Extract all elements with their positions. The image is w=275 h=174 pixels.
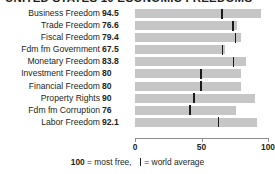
world-average-tick	[218, 117, 220, 127]
world-average-tick	[189, 105, 191, 115]
bar-row-label: Labor Freedom	[0, 117, 100, 128]
bar-row-value: 80	[102, 81, 130, 92]
bar-row-value: 76	[102, 105, 130, 116]
bar-row-value: 94.5	[102, 8, 130, 19]
bar-track	[135, 82, 268, 91]
value-bar	[135, 118, 257, 127]
axis-tick-label: 50	[187, 142, 217, 152]
value-bar	[135, 33, 241, 42]
value-bar	[135, 106, 236, 115]
bar-row: Property Rights90	[0, 93, 275, 105]
bar-row: Fiscal Freedom79.4	[0, 32, 275, 44]
bar-row-label: Fdm fm Government	[0, 44, 100, 55]
world-average-tick	[235, 33, 237, 43]
economic-freedoms-chart: UNITED STATES 10 ECONOMIC FREEDOMS Busin…	[0, 0, 275, 174]
bar-row-label: Investment Freedom	[0, 68, 100, 79]
bar-row: Trade Freedom76.6	[0, 20, 275, 32]
bar-row-value: 76.6	[102, 20, 130, 31]
value-bar	[135, 57, 246, 66]
bar-row-label: Monetary Freedom	[0, 56, 100, 67]
bar-row-value: 67.5	[102, 44, 130, 55]
axis-tick-label: 100	[253, 142, 275, 152]
bar-row-label: Fdm fm Corruption	[0, 105, 100, 116]
value-bar	[135, 82, 241, 91]
value-bar	[135, 21, 237, 30]
world-average-tick	[233, 57, 235, 67]
axis-tick-mark	[202, 138, 203, 142]
world-average-marker-icon	[140, 158, 142, 166]
axis-tick-mark	[268, 138, 269, 142]
bar-track	[135, 94, 268, 103]
value-bar	[135, 69, 241, 78]
legend-max-value: 100	[71, 157, 85, 167]
bar-row-value: 90	[102, 93, 130, 104]
bar-row-value: 92.1	[102, 117, 130, 128]
world-average-tick	[221, 9, 223, 19]
bar-row-value: 83.8	[102, 56, 130, 67]
bar-row: Fdm fm Corruption76	[0, 105, 275, 117]
value-bar	[135, 9, 261, 18]
bar-row: Financial Freedom80	[0, 81, 275, 93]
bar-row: Investment Freedom80	[0, 68, 275, 80]
bar-row: Monetary Freedom83.8	[0, 56, 275, 68]
bar-track	[135, 9, 268, 18]
bar-track	[135, 21, 268, 30]
bar-row: Fdm fm Government67.5	[0, 44, 275, 56]
legend-average-text: = world average	[144, 157, 204, 167]
bar-track	[135, 118, 268, 127]
page-title: UNITED STATES 10 ECONOMIC FREEDOMS	[5, 0, 252, 4]
world-average-tick	[222, 45, 224, 55]
chart-title-clipped: UNITED STATES 10 ECONOMIC FREEDOMS	[0, 0, 275, 5]
legend-max-text: = most free,	[87, 157, 131, 167]
bar-track	[135, 45, 268, 54]
world-average-tick	[200, 81, 202, 91]
bar-track	[135, 69, 268, 78]
world-average-tick	[232, 21, 234, 31]
chart-legend: 100 = most free,= world average	[0, 156, 275, 168]
axis-tick-label: 0	[120, 142, 150, 152]
bar-row-label: Financial Freedom	[0, 81, 100, 92]
bar-row: Labor Freedom92.1	[0, 117, 275, 129]
bar-row-value: 80	[102, 68, 130, 79]
bar-rows: Business Freedom94.5Trade Freedom76.6Fis…	[0, 8, 275, 129]
world-average-tick	[193, 93, 195, 103]
bar-track	[135, 106, 268, 115]
bar-row-label: Property Rights	[0, 93, 100, 104]
axis-tick-mark	[135, 138, 136, 142]
bar-row-label: Business Freedom	[0, 8, 100, 19]
bar-track	[135, 57, 268, 66]
bar-row-label: Trade Freedom	[0, 20, 100, 31]
bar-row: Business Freedom94.5	[0, 8, 275, 20]
bar-row-value: 79.4	[102, 32, 130, 43]
bar-row-label: Fiscal Freedom	[0, 32, 100, 43]
world-average-tick	[200, 69, 202, 79]
value-bar	[135, 45, 225, 54]
bar-track	[135, 33, 268, 42]
